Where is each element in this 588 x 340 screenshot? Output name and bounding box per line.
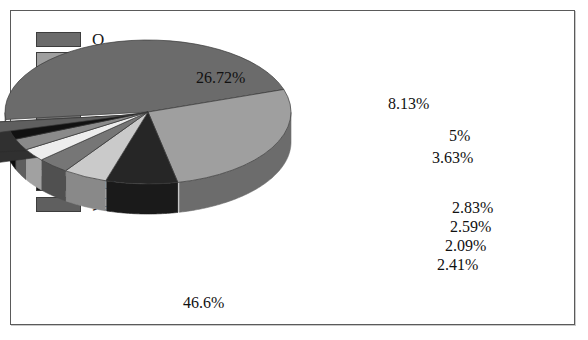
callout-ca-percent: 3.63%	[432, 150, 473, 166]
callout-mg-percent: 2.09%	[445, 238, 486, 254]
callout-other-percent: 2.41%	[437, 257, 478, 273]
callout-si-percent: 26.72%	[196, 70, 245, 86]
callout-k-percent: 2.59%	[450, 219, 491, 235]
callout-fe-percent: 5%	[449, 128, 470, 144]
pie-chart-graphic	[0, 0, 300, 250]
chart-page: O Si Al Fe Ca Na K Mg	[0, 0, 588, 340]
callout-na-percent: 2.83%	[452, 200, 493, 216]
callout-al-percent: 8.13%	[388, 96, 429, 112]
callout-o-percent: 46.6%	[183, 295, 224, 311]
